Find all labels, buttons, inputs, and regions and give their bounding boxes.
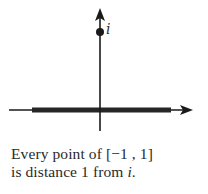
caption-bracket: ] <box>148 145 153 162</box>
caption-separator: , <box>128 145 140 162</box>
complex-plane-diagram: i <box>0 0 208 140</box>
caption-line-2: is distance 1 from i. <box>11 163 206 181</box>
caption-minus-one: −1 <box>111 145 128 162</box>
caption-line-1: Every point of [−1 , 1] <box>11 145 206 163</box>
caption-text: is distance 1 from <box>11 163 127 180</box>
caption-one: 1 <box>140 145 148 162</box>
caption: Every point of [−1 , 1] is distance 1 fr… <box>11 145 206 181</box>
caption-text: Every point of [ <box>11 145 111 162</box>
point-i <box>96 28 104 36</box>
caption-period: . <box>132 163 136 180</box>
point-i-label: i <box>106 21 110 37</box>
